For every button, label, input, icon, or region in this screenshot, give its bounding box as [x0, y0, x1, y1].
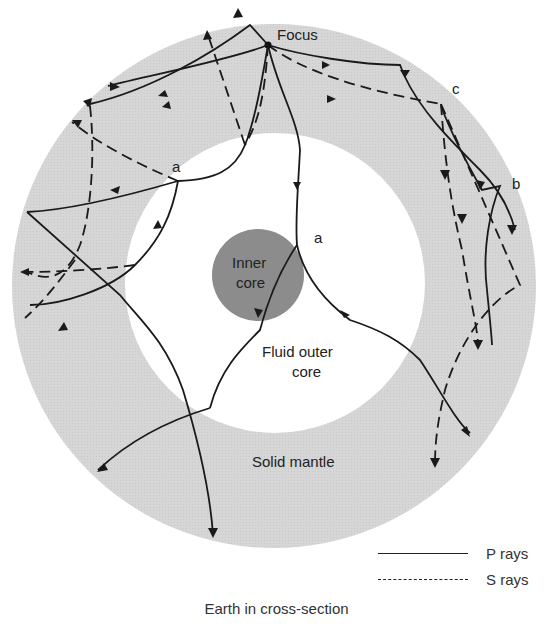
- solid-line-swatch: [378, 553, 468, 554]
- point-c-label: c: [452, 80, 460, 97]
- point-b-label: b: [512, 175, 520, 192]
- inner-core-label-line1: Inner: [232, 254, 266, 271]
- inner-core-label-line2: core: [236, 274, 265, 291]
- legend: P rays S rays: [378, 540, 529, 592]
- outer-core-label-line1: Fluid outer: [262, 343, 333, 360]
- outer-core-label-line2: core: [292, 363, 321, 380]
- point-a-center-label: a: [314, 229, 323, 246]
- legend-label: S rays: [486, 571, 529, 588]
- dashed-line-swatch: [378, 579, 468, 580]
- mantle-label: Solid mantle: [252, 453, 335, 470]
- focus-point: [265, 42, 272, 49]
- legend-item-p-rays: P rays: [378, 540, 529, 566]
- legend-item-s-rays: S rays: [378, 566, 529, 592]
- focus-label: Focus: [277, 26, 318, 43]
- legend-label: P rays: [486, 545, 528, 562]
- point-a-left-label: a: [172, 158, 181, 175]
- figure-caption: Earth in cross-section: [0, 600, 553, 617]
